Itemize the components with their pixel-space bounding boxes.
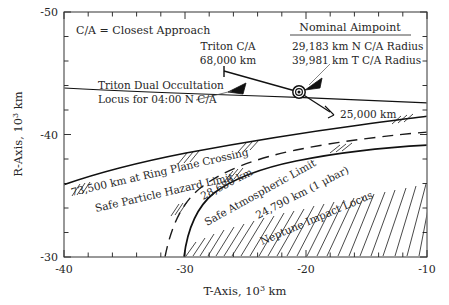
distance-callout-label: 25,000 km [340, 108, 396, 120]
y-axis-title: R-Axis, 103 km [11, 91, 25, 177]
triton-ca-label: Triton C/A [200, 40, 256, 52]
figure-root: -50 -40 -30 -40 -30 -20 -10 T-Axis, 103 … [0, 0, 449, 305]
aimpoint-n-radius: 29,183 km N C/A Radius [292, 40, 423, 52]
neptune-aimpoint-chart: -50 -40 -30 -40 -30 -20 -10 T-Axis, 103 … [0, 0, 449, 305]
legend-title: Nominal Aimpoint [299, 21, 401, 34]
xtick-label-3: -10 [418, 263, 436, 276]
x-axis-title: T-Axis, 103 km [203, 284, 286, 298]
xtick-label-0: -40 [55, 263, 73, 276]
closest-approach-note: C/A = Closest Approach [76, 24, 210, 37]
aimpoint-t-radius: 39,981 km T C/A Radius [292, 54, 421, 66]
xtick-label-2: -20 [297, 263, 315, 276]
ytick-label-1: -40 [40, 129, 58, 142]
nominal-aimpoint-marker [293, 86, 305, 98]
triton-ca-distance: 68,000 km [200, 54, 256, 66]
occultation-caption-line1: Triton Dual Occultation [98, 79, 224, 91]
occultation-caption-line2: Locus for 04:00 N C/A [98, 93, 217, 105]
ytick-label-0: -50 [40, 6, 58, 19]
xtick-label-1: -30 [176, 263, 194, 276]
